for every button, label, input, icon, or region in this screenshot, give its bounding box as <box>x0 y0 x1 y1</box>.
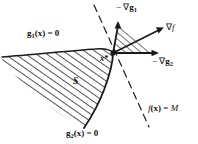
optimum-point-marker <box>110 50 115 55</box>
label-constraint-g2: g2(x) = 0 <box>66 129 98 138</box>
label-optimum-point: x* <box>100 54 109 63</box>
label-objective-level-set: f(x) = M <box>148 104 178 113</box>
label-neg-grad-g1: − ∇g1 <box>116 3 137 12</box>
optimization-diagram: g1(x) = 0 g2(x) = 0 f(x) = M − ∇g1 ∇f − … <box>0 0 198 144</box>
label-constraint-g1: g1(x) = 0 <box>27 29 59 38</box>
label-feasible-region: S <box>73 77 78 87</box>
label-neg-grad-g2: − ∇g2 <box>152 57 173 66</box>
label-grad-f: ∇f <box>166 23 175 32</box>
